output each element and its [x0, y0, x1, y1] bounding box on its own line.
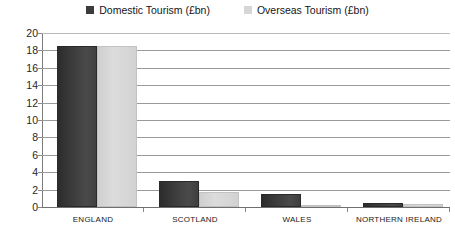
- bar-group: [42, 33, 144, 207]
- x-axis-tick-mark: [347, 208, 348, 212]
- y-axis-tick-label: 6: [2, 150, 38, 160]
- bar-chart: 20181614121086420 ENGLANDSCOTLANDWALESNO…: [0, 22, 455, 237]
- legend-swatch-overseas: [244, 6, 252, 14]
- x-axis-tick-mark: [143, 208, 144, 212]
- legend-entry-domestic: Domestic Tourism (£bn): [86, 5, 210, 16]
- legend-swatch-domestic: [86, 6, 94, 14]
- y-axis-tick-label: 16: [2, 63, 38, 73]
- legend-label-domestic: Domestic Tourism (£bn): [99, 5, 210, 16]
- bar-group: [348, 33, 450, 207]
- x-axis-categories: ENGLANDSCOTLANDWALESNORTHERN IRELAND: [42, 208, 450, 237]
- bar-overseas[interactable]: [199, 192, 239, 207]
- y-axis-labels: 20181614121086420: [0, 33, 38, 207]
- bar-domestic[interactable]: [57, 46, 97, 207]
- legend-label-overseas: Overseas Tourism (£bn): [257, 5, 369, 16]
- y-axis-tick-label: 14: [2, 80, 38, 90]
- x-axis-category-label: WALES: [246, 215, 348, 224]
- bar-group: [144, 33, 246, 207]
- chart-legend: Domestic Tourism (£bn) Overseas Tourism …: [0, 3, 455, 17]
- bar-domestic[interactable]: [261, 194, 301, 207]
- bar-domestic[interactable]: [363, 203, 403, 207]
- x-axis-category-label: ENGLAND: [42, 215, 144, 224]
- bar-group: [246, 33, 348, 207]
- y-axis-tick-label: 10: [2, 115, 38, 125]
- bar-overseas[interactable]: [403, 204, 443, 207]
- y-axis-tick-label: 8: [2, 132, 38, 142]
- x-axis-category-label: NORTHERN IRELAND: [348, 215, 450, 224]
- y-axis-tick-label: 4: [2, 167, 38, 177]
- x-axis-tick-mark: [245, 208, 246, 212]
- y-axis-tick-label: 20: [2, 28, 38, 38]
- y-axis-tick-label: 12: [2, 98, 38, 108]
- x-axis-category-label: SCOTLAND: [144, 215, 246, 224]
- y-axis-tick-label: 0: [2, 202, 38, 212]
- y-axis-tick-label: 18: [2, 45, 38, 55]
- bar-domestic[interactable]: [159, 181, 199, 207]
- legend-entry-overseas: Overseas Tourism (£bn): [244, 5, 369, 16]
- x-axis-tick-mark: [449, 208, 450, 212]
- y-axis-tick-label: 2: [2, 185, 38, 195]
- bar-overseas[interactable]: [301, 205, 341, 207]
- bar-series-container: [42, 33, 450, 207]
- bar-overseas[interactable]: [97, 46, 137, 207]
